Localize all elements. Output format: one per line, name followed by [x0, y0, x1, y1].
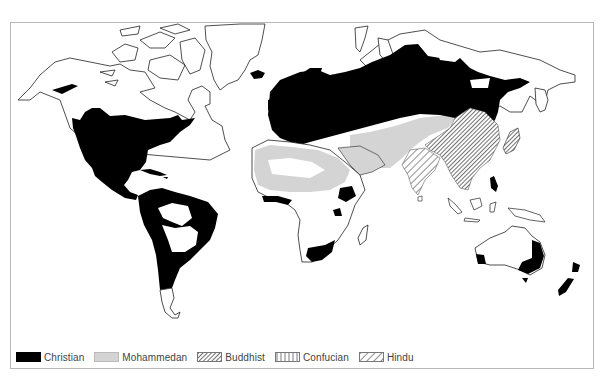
legend-label: Buddhist	[225, 352, 265, 363]
buddhist-swatch-icon	[197, 352, 222, 362]
new-zealand-christian	[558, 262, 580, 296]
mohammedan-swatch-icon	[94, 352, 119, 362]
caribbean-christian	[140, 169, 168, 179]
north-america	[18, 24, 265, 200]
christian-swatch-icon	[16, 352, 41, 362]
legend-item-buddhist: Buddhist	[197, 352, 265, 363]
south-america	[138, 188, 218, 318]
africa	[252, 140, 385, 262]
legend-item-mohammedan: Mohammedan	[94, 352, 187, 363]
confucian-swatch-icon	[275, 352, 300, 362]
world-map	[0, 0, 608, 380]
legend: Christian Mohammedan Buddhist Confucian …	[16, 351, 424, 363]
philippines-christian	[490, 176, 498, 192]
oceania	[448, 176, 580, 296]
legend-label: Confucian	[303, 352, 349, 363]
greenland	[205, 24, 265, 90]
madagascar	[358, 225, 368, 245]
tasmania-christian	[522, 278, 528, 283]
new-guinea	[508, 208, 545, 222]
iceland-christian	[250, 70, 265, 79]
patagonia	[160, 288, 180, 318]
legend-item-christian: Christian	[16, 352, 84, 363]
sri-lanka	[418, 196, 422, 201]
legend-label: Mohammedan	[122, 352, 187, 363]
indonesia	[448, 198, 496, 222]
legend-item-hindu: Hindu	[359, 352, 414, 363]
legend-label: Christian	[44, 352, 84, 363]
japan	[503, 128, 520, 154]
india-hindu	[402, 148, 440, 195]
legend-item-confucian: Confucian	[275, 352, 349, 363]
hindu-swatch-icon	[359, 352, 384, 362]
legend-label: Hindu	[387, 352, 414, 363]
